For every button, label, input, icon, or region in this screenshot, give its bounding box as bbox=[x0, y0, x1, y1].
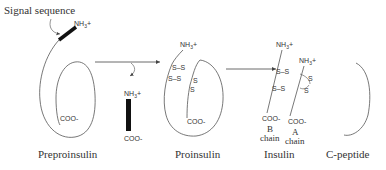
proinsulin-label: Proinsulin bbox=[175, 148, 221, 160]
preproinsulin-structure: Signal sequence NH3+ COO- Preproinsulin bbox=[4, 4, 98, 160]
c-peptide-arc bbox=[344, 63, 370, 135]
ss-bond-2: S–S bbox=[168, 75, 182, 82]
insulin-a-chain bbox=[290, 66, 304, 116]
cleaved-signal-sequence: NH3+ COO- bbox=[124, 90, 143, 142]
proinsulin-structure: NH3+ S–S S–S S S COO- Proinsulin bbox=[164, 41, 223, 160]
a-chain-nh3-label: NH3+ bbox=[299, 57, 316, 66]
signal-sequence-label: Signal sequence bbox=[4, 4, 75, 16]
a-chain-word: chain bbox=[285, 136, 305, 146]
ss-bond-1: S–S bbox=[172, 64, 186, 71]
signal-sequence-fragment bbox=[126, 99, 131, 131]
insulin-structure: NH3+ NH3+ S–S S–S S S COO- COO- B chain … bbox=[260, 41, 316, 160]
insulin-ss-bond-1: S–S bbox=[276, 68, 290, 75]
a-chain-coo-label: COO- bbox=[288, 118, 307, 125]
insulin-intra-s-1: S bbox=[308, 75, 313, 82]
insulin-ss-bond-2: S–S bbox=[272, 85, 286, 92]
signal-nh3-label: NH3+ bbox=[124, 90, 141, 99]
preproinsulin-label: Preproinsulin bbox=[38, 148, 98, 160]
intra-s-2: S bbox=[190, 86, 195, 93]
signal-pointer-arrow bbox=[50, 19, 60, 34]
insulin-processing-diagram: Signal sequence NH3+ COO- Preproinsulin … bbox=[0, 0, 386, 170]
b-chain-word: chain bbox=[260, 133, 280, 143]
proinsulin-b-chain bbox=[172, 50, 183, 64]
preproinsulin-nh3-label: NH3+ bbox=[74, 20, 91, 29]
signal-sequence-bar bbox=[59, 27, 76, 40]
proinsulin-coo-label: COO- bbox=[187, 118, 206, 125]
insulin-label: Insulin bbox=[264, 148, 295, 160]
c-peptide-structure: C-peptide bbox=[326, 63, 370, 160]
b-chain-coo-label: COO- bbox=[262, 115, 281, 122]
signal-release-arrow bbox=[130, 63, 135, 76]
preproinsulin-coo-label: COO- bbox=[60, 115, 79, 122]
preproinsulin-chain bbox=[40, 40, 95, 137]
c-peptide-label: C-peptide bbox=[326, 148, 369, 160]
insulin-b-chain bbox=[267, 50, 282, 113]
b-chain-nh3-label: NH3+ bbox=[276, 41, 293, 50]
proinsulin-nh3-label: NH3+ bbox=[180, 41, 197, 50]
signal-coo-label: COO- bbox=[124, 135, 143, 142]
intra-s-1: S bbox=[193, 77, 198, 84]
